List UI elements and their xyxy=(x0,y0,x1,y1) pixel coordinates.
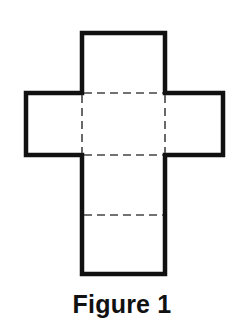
figure-caption: Figure 1 xyxy=(0,290,244,319)
net-outline xyxy=(26,33,223,274)
cube-net-diagram xyxy=(0,0,244,324)
fold-lines xyxy=(82,93,165,215)
